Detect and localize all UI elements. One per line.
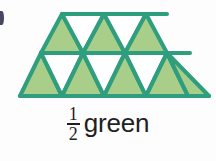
fraction-one-half: 1 2 xyxy=(67,105,80,144)
caption-word: green xyxy=(84,110,150,136)
fraction-denominator: 2 xyxy=(67,125,80,143)
caption: 1 2 green xyxy=(0,104,216,143)
fraction-numerator: 1 xyxy=(67,105,80,123)
triangle-trapezoid-figure xyxy=(0,0,216,110)
figure-page: 1 2 green xyxy=(0,0,216,161)
triangle-group xyxy=(20,14,209,96)
triangle-figure-svg xyxy=(0,0,216,110)
